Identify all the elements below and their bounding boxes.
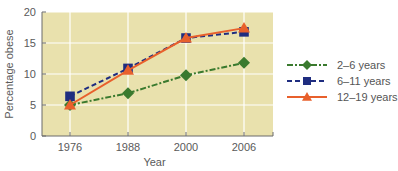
y-tick-label: 0 — [30, 130, 36, 142]
x-tick-label: 2006 — [232, 141, 256, 153]
y-tick-label: 20 — [24, 6, 36, 18]
x-axis-title: Year — [143, 156, 166, 168]
y-tick-label: 15 — [24, 37, 36, 49]
x-tick-label: 1988 — [116, 141, 140, 153]
legend-label: 12–19 years — [337, 91, 398, 103]
legend-swatch-triangle-icon — [285, 90, 329, 104]
legend: 2–6 years 6–11 years 12–19 years — [285, 57, 398, 105]
y-axis-title: Percentage obese — [3, 29, 15, 118]
legend-item-6-11-years: 6–11 years — [285, 73, 398, 89]
y-tick-label: 5 — [30, 99, 36, 111]
legend-swatch-square-icon — [285, 74, 329, 88]
legend-item-2-6-years: 2–6 years — [285, 57, 398, 73]
x-tick-label: 2000 — [174, 141, 198, 153]
legend-label: 6–11 years — [337, 75, 391, 87]
legend-label: 2–6 years — [337, 59, 385, 71]
legend-item-12-19-years: 12–19 years — [285, 89, 398, 105]
legend-swatch-diamond-icon — [285, 58, 329, 72]
y-tick-label: 10 — [24, 68, 36, 80]
x-tick-label: 1976 — [58, 141, 82, 153]
